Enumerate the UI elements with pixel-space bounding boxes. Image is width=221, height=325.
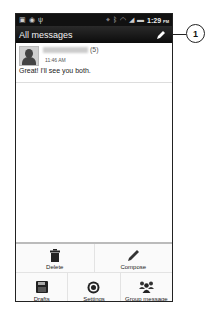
message-count: (5) [90, 46, 99, 53]
menu-item-group-message[interactable]: Group message [121, 273, 172, 302]
notification-icon: ▣ [19, 14, 26, 26]
phone-screen: ▣ ◉ ψ ⌖ ᛒ ◠ ◢ ▬ 1:29 PM All messages [15, 13, 173, 302]
menu-item-settings[interactable]: Settings [68, 273, 120, 302]
floppy-disk-icon [36, 281, 48, 293]
menu-item-delete[interactable]: Delete [16, 244, 95, 272]
pencil-icon [127, 249, 140, 262]
group-icon [139, 281, 154, 293]
message-time: 11:46 AM [45, 57, 66, 63]
message-thread[interactable]: (5) 11:46 AM Great! I'll see you both. [16, 43, 172, 83]
battery-icon: ▬ [137, 14, 144, 26]
options-menu: Delete Compose [16, 242, 172, 302]
status-bar: ▣ ◉ ψ ⌖ ᛒ ◠ ◢ ▬ 1:29 PM [16, 14, 172, 26]
message-list: (5) 11:46 AM Great! I'll see you both. [16, 43, 172, 242]
page-title: All messages [16, 30, 73, 40]
menu-item-compose[interactable]: Compose [95, 244, 173, 272]
redacted-name [43, 47, 88, 53]
wifi-icon: ◠ [120, 14, 126, 26]
clock: 1:29 PM [147, 17, 169, 24]
usb-icon: ψ [38, 14, 43, 26]
pencil-icon [156, 30, 166, 40]
trash-icon [50, 249, 60, 262]
title-bar: All messages [16, 26, 172, 43]
signal-icon: ◢ [129, 14, 134, 26]
message-snippet: Great! I'll see you both. [19, 67, 91, 74]
gear-icon [87, 281, 100, 294]
contact-name: (5) [43, 46, 99, 53]
compose-button[interactable] [155, 29, 167, 41]
callout-marker: 1 [186, 24, 205, 43]
gps-icon: ⌖ [106, 14, 110, 26]
bluetooth-icon: ᛒ [113, 14, 117, 26]
menu-item-drafts[interactable]: Drafts [16, 273, 68, 302]
callout-line [173, 34, 186, 35]
avatar [19, 46, 39, 66]
alarm-icon: ◉ [29, 14, 35, 26]
